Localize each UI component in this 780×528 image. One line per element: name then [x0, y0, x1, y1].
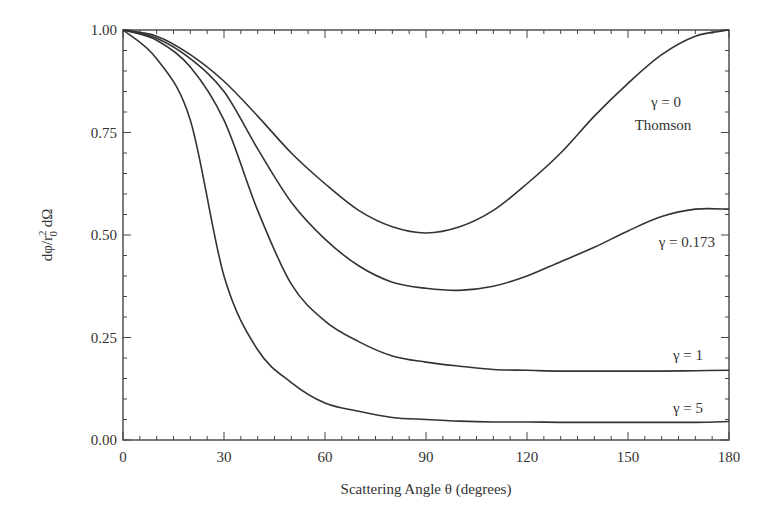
- y-tick-label: 0.00: [91, 432, 117, 448]
- x-tick-label: 0: [119, 449, 127, 465]
- scattering-chart: 03060901201501800.000.250.500.751.00 Sca…: [0, 0, 780, 528]
- y-tick-label: 1.00: [91, 22, 117, 38]
- label-thomson: Thomson: [635, 117, 692, 133]
- curve-series-2: [123, 30, 729, 371]
- tick-labels: 03060901201501800.000.250.500.751.00: [91, 22, 741, 465]
- x-tick-label: 180: [718, 449, 741, 465]
- x-tick-label: 150: [617, 449, 640, 465]
- x-tick-label: 60: [318, 449, 333, 465]
- y-tick-label: 0.50: [91, 227, 117, 243]
- label-gamma-1: γ = 1: [672, 347, 703, 363]
- y-tick-label: 0.75: [91, 125, 117, 141]
- label-gamma-0: γ = 0: [650, 94, 681, 110]
- x-tick-label: 120: [516, 449, 539, 465]
- label-gamma-0173: γ = 0.173: [658, 234, 715, 250]
- y-axis-title-tail: dΩ: [39, 209, 55, 231]
- svg-text:dφ/r20 dΩ: dφ/r20 dΩ: [36, 209, 59, 262]
- label-gamma-5: γ = 5: [672, 400, 703, 416]
- x-tick-label: 90: [419, 449, 434, 465]
- y-axis-title: dφ/r20 dΩ: [36, 209, 59, 262]
- y-axis-title-main: dφ/r: [39, 236, 55, 261]
- curve-series-1: [123, 30, 729, 290]
- x-axis-title: Scattering Angle θ (degrees): [341, 481, 512, 498]
- y-tick-label: 0.25: [91, 330, 117, 346]
- curves: [123, 30, 729, 422]
- x-tick-label: 30: [217, 449, 232, 465]
